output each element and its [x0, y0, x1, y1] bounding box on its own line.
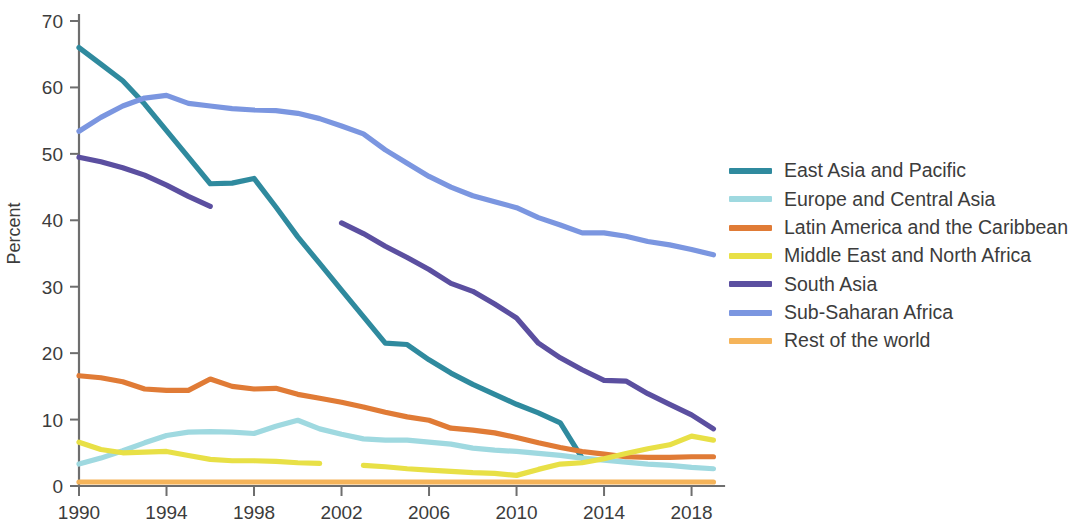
y-tick-label: 0 [52, 476, 63, 497]
chart-axes [70, 15, 724, 496]
y-tick-label: 70 [42, 11, 63, 32]
y-tick-label: 10 [42, 410, 63, 431]
legend-item-label: Latin America and the Caribbean [784, 218, 1068, 238]
x-tick-label: 2006 [408, 502, 450, 523]
legend-item-east-asia-and-pacific[interactable]: East Asia and Pacific [729, 157, 1029, 185]
legend-item-label: South Asia [784, 275, 877, 295]
x-tick-label: 1990 [58, 502, 100, 523]
y-tick-label: 40 [42, 210, 63, 231]
legend-item-label: East Asia and Pacific [784, 161, 966, 181]
y-axis-title-text: Percent [4, 202, 24, 264]
legend-color-swatch [729, 338, 772, 344]
x-tick-label: 2014 [583, 502, 626, 523]
legend-item-rest-of-the-world[interactable]: Rest of the world [729, 327, 1029, 355]
legend-color-swatch [729, 196, 772, 202]
legend-item-label: Rest of the world [784, 331, 930, 351]
legend-item-middle-east-and-north-africa[interactable]: Middle East and North Africa [729, 242, 1029, 270]
x-tick-label: 2018 [670, 502, 712, 523]
legend-color-swatch [729, 281, 772, 287]
series-line-south-asia [342, 223, 714, 429]
legend-item-sub-saharan-africa[interactable]: Sub-Saharan Africa [729, 298, 1029, 326]
x-tick-label: 2010 [495, 502, 537, 523]
y-tick-label: 30 [42, 277, 63, 298]
x-tick-label: 1994 [145, 502, 188, 523]
series-line-east-asia-and-pacific [79, 48, 582, 459]
series-line-south-asia [79, 157, 210, 206]
series-line-latin-america-and-the-caribbean [79, 376, 713, 458]
legend-item-latin-america-and-the-caribbean[interactable]: Latin America and the Caribbean [729, 214, 1029, 242]
x-tick-label: 1998 [233, 502, 275, 523]
legend-item-label: Middle East and North Africa [784, 246, 1031, 266]
chart-series-lines [79, 48, 713, 482]
y-tick-label: 20 [42, 343, 63, 364]
x-tick-label: 2002 [320, 502, 362, 523]
legend-color-swatch [729, 310, 772, 316]
legend-item-label: Europe and Central Asia [784, 190, 995, 210]
legend-color-swatch [729, 253, 772, 259]
y-axis-title: Percent [4, 202, 24, 264]
chart-legend: East Asia and PacificEurope and Central … [729, 157, 1029, 355]
legend-item-europe-and-central-asia[interactable]: Europe and Central Asia [729, 185, 1029, 213]
series-line-middle-east-and-north-africa [79, 442, 320, 463]
legend-item-label: Sub-Saharan Africa [784, 303, 953, 323]
legend-color-swatch [729, 168, 772, 174]
y-tick-label: 50 [42, 144, 63, 165]
y-tick-label: 60 [42, 77, 63, 98]
legend-color-swatch [729, 225, 772, 231]
series-line-europe-and-central-asia [79, 420, 713, 468]
legend-item-south-asia[interactable]: South Asia [729, 270, 1029, 298]
series-line-sub-saharan-africa [79, 95, 713, 254]
